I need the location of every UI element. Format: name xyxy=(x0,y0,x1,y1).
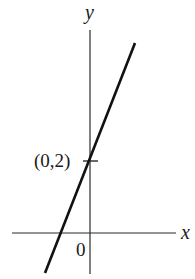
graph: y x 0 (0,2) xyxy=(0,0,195,279)
origin-label: 0 xyxy=(76,239,86,260)
x-axis-label: x xyxy=(180,221,190,243)
y-axis-label: y xyxy=(83,1,94,24)
intercept-label: (0,2) xyxy=(34,150,70,172)
